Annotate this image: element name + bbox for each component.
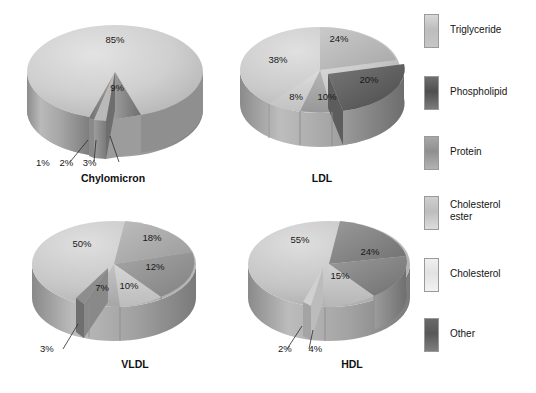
vldl-label-50: 50% <box>72 238 92 249</box>
legend-item-cholesterol[interactable]: Cholesterol <box>424 258 501 292</box>
hdl-callout-4: 4% <box>308 343 322 354</box>
vldl-pie-chart: 50% 18% 12% 10% 7% <box>26 206 206 351</box>
legend: Triglyceride Phospholipid Protein Choles… <box>424 0 536 393</box>
chylomicron-label-85: 85% <box>105 34 125 45</box>
chylomicron-callout-labels: 1% 2% 3% <box>36 157 96 168</box>
chylomicron-title: Chylomicron <box>53 172 173 184</box>
chylomicron-label-9: 9% <box>110 82 124 93</box>
legend-swatch-triglyceride <box>424 14 439 48</box>
ldl-label-20: 20% <box>359 74 379 85</box>
legend-label-other: Other <box>450 318 475 340</box>
legend-swatch-cholesterol-ester <box>424 196 439 230</box>
vldl-label-12: 12% <box>145 261 165 272</box>
legend-label-cholesterol: Cholesterol <box>450 258 501 280</box>
hdl-pie-chart: 55% 24% 15% <box>243 206 415 351</box>
chylomicron-callout-2: 2% <box>59 157 73 168</box>
hdl-callout-2: 2% <box>278 343 292 354</box>
legend-label-cholesterol-ester: Cholesterol ester <box>450 196 501 223</box>
vldl-callout-labels: 3% <box>40 343 54 354</box>
ldl-label-38: 38% <box>268 54 288 65</box>
ldl-label-10: 10% <box>317 91 337 102</box>
hdl-label-15: 15% <box>330 270 350 281</box>
vldl-title: VLDL <box>95 358 175 370</box>
hdl-title: HDL <box>312 358 392 370</box>
vldl-label-18: 18% <box>142 232 162 243</box>
hdl-label-55: 55% <box>290 234 310 245</box>
legend-item-protein[interactable]: Protein <box>424 136 482 170</box>
legend-swatch-cholesterol <box>424 258 439 292</box>
vldl-callout-3: 3% <box>40 343 54 354</box>
legend-label-protein: Protein <box>450 136 482 158</box>
ldl-pie-chart: 24% 38% 20% 10% 8% <box>236 12 406 157</box>
chylomicron-callout-1: 1% <box>36 157 50 168</box>
hdl-slice-side-triglyceride <box>303 302 311 340</box>
lipoprotein-composition-figure: 85% 9% 1% 2% 3% Chylomicron <box>0 0 536 393</box>
chylomicron-notch-wall-b <box>94 120 106 159</box>
legend-item-phospholipid[interactable]: Phospholipid <box>424 76 507 110</box>
ldl-label-8: 8% <box>289 91 303 102</box>
vldl-slice-side-other <box>76 298 84 338</box>
chylomicron-callout-3: 3% <box>83 157 97 168</box>
legend-swatch-other <box>424 318 439 352</box>
ldl-label-24: 24% <box>329 33 349 44</box>
legend-item-other[interactable]: Other <box>424 318 475 352</box>
vldl-label-10: 10% <box>119 280 139 291</box>
legend-label-triglyceride: Triglyceride <box>450 14 501 36</box>
vldl-label-7: 7% <box>95 282 109 293</box>
hdl-callout-labels: 2% 4% <box>278 343 322 354</box>
legend-swatch-protein <box>424 136 439 170</box>
legend-item-cholesterol-ester[interactable]: Cholesterol ester <box>424 196 501 230</box>
chylomicron-pie-chart: 85% 9% <box>22 10 207 160</box>
hdl-label-24: 24% <box>360 246 380 257</box>
legend-swatch-phospholipid <box>424 76 439 110</box>
ldl-title: LDL <box>262 172 382 184</box>
legend-label-phospholipid: Phospholipid <box>450 76 507 98</box>
legend-item-triglyceride[interactable]: Triglyceride <box>424 14 501 48</box>
chylomicron-notch-wall-a <box>89 118 94 158</box>
